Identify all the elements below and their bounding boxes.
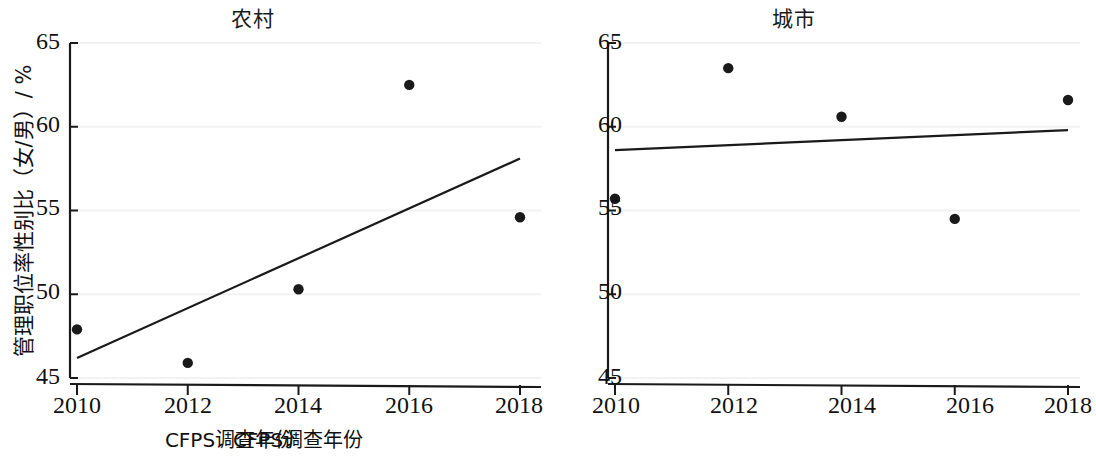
data-point bbox=[723, 63, 733, 73]
y-tick-label-50-urban: 50 bbox=[578, 278, 622, 305]
data-point bbox=[72, 324, 82, 334]
y-tick-label-65-urban: 65 bbox=[578, 28, 622, 55]
data-point bbox=[950, 214, 960, 224]
data-point bbox=[515, 212, 525, 222]
x-tick-label-2014-urban: 2014 bbox=[812, 392, 892, 419]
x-tick-label-2018-urban: 2018 bbox=[1028, 392, 1096, 419]
data-point bbox=[836, 112, 846, 122]
x-tick-label-2012-urban: 2012 bbox=[694, 392, 774, 419]
y-tick-label-45-urban: 45 bbox=[578, 363, 622, 390]
data-point bbox=[293, 284, 303, 294]
data-point bbox=[183, 358, 193, 368]
data-point bbox=[1063, 95, 1073, 105]
x-tick-label-2010-urban: 2010 bbox=[576, 392, 656, 419]
data-point bbox=[404, 80, 414, 90]
y-tick-label-55-urban: 55 bbox=[578, 194, 622, 221]
plot-area-rural bbox=[0, 0, 545, 456]
y-tick-label-60-urban: 60 bbox=[578, 111, 622, 138]
x-axis-label-urban: CFPS调查年份 bbox=[0, 424, 460, 453]
panel-rural: 农村 管理职位率性别比（女/男）/ % CFPS调查年份 65 60 55 50… bbox=[0, 0, 545, 456]
x-tick-label-2016-urban: 2016 bbox=[930, 392, 1010, 419]
